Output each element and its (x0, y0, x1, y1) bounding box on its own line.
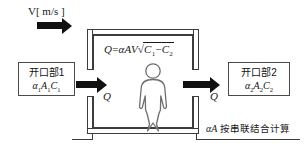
room-inner-right-upper (192, 35, 193, 70)
wind-inlet-arrow-shaft (37, 22, 63, 29)
floor-drop-left (92, 133, 93, 140)
wind-inlet-arrow-head (62, 18, 72, 34)
formula-c1: C (144, 43, 152, 55)
opening-2-symbols: α2A2C2 (233, 79, 285, 96)
person-figure (128, 62, 178, 138)
room-wall-right-upper (193, 29, 199, 70)
opening-1-pressure-sub: 1 (57, 86, 60, 93)
opening-cap-left-lower (87, 96, 93, 97)
opening-cap-left-upper (87, 69, 93, 70)
room-inner-left-lower (93, 96, 94, 129)
series-combination-note: αA 按串联结合计算 (206, 121, 290, 135)
diagram-canvas: V[ m/s ] Q=αAV√C1−C2 Q Q (0, 0, 305, 155)
flow-rate-formula: Q=αAV√C1−C2 (104, 43, 174, 58)
flow-in-arrow-shaft (76, 81, 98, 88)
opening-cap-right-upper (193, 69, 199, 70)
opening-2-title: 开口部2 (233, 66, 285, 79)
opening-cap-right-lower (193, 96, 199, 97)
wind-velocity-label: V[ m/s ] (28, 5, 65, 17)
opening-2-pressure-sub: 2 (270, 86, 273, 93)
note-text: 按串联结合计算 (217, 123, 290, 134)
opening-1-title: 开口部1 (23, 66, 70, 79)
floor-line-left (72, 139, 92, 140)
opening-2-box: 开口部2 α2A2C2 (228, 62, 290, 96)
room-inner-left-upper (93, 35, 94, 70)
wind-velocity-text: V[ m/s ] (28, 5, 65, 17)
opening-2-pressure: C (263, 80, 270, 91)
floor-line-right (196, 139, 300, 140)
flow-label-left: Q (103, 90, 111, 102)
opening-1-box: 开口部1 α1A1C1 (18, 62, 75, 96)
formula-coefficients: αAV (119, 43, 138, 55)
flow-label-right: Q (210, 90, 218, 102)
formula-c2-sub: 2 (169, 50, 173, 58)
radicand: C1−C2 (143, 42, 174, 55)
opening-1-symbols: α1A1C1 (23, 79, 70, 96)
flow-out-arrow-shaft (183, 81, 211, 88)
room-inner-right-lower (192, 96, 193, 129)
formula-lhs: Q (104, 43, 112, 55)
note-symbol: αA (206, 123, 217, 134)
